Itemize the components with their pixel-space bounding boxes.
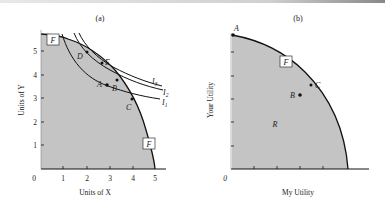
point-c-b	[310, 84, 313, 87]
frontier-label-box-b: F	[280, 56, 292, 67]
svg-text:C: C	[126, 103, 132, 112]
svg-text:3: 3	[108, 174, 112, 183]
svg-text:1: 1	[61, 174, 65, 183]
point-c	[131, 98, 134, 101]
panel-b-title: (b)	[293, 14, 303, 23]
x-axis-label-b: My Utility	[282, 188, 314, 197]
y-axis-label-b: Your Utility	[206, 82, 215, 118]
svg-text:2: 2	[85, 174, 89, 183]
panel-a: (a) 0 1 2 3	[17, 14, 169, 197]
x-tick-labels-a: 0 1 2 3 4 5	[32, 174, 157, 183]
frontier-label-box-bottom-a: F	[143, 138, 155, 149]
x-axis-label-a: Units of X	[79, 188, 111, 197]
y-tick-labels-a: 1 2 3 4 5	[33, 47, 37, 150]
point-b-b	[298, 93, 302, 97]
svg-text:I3: I3	[151, 77, 158, 87]
panel-a-title: (a)	[96, 14, 105, 23]
svg-text:E: E	[104, 58, 110, 67]
svg-text:1: 1	[33, 141, 37, 150]
panel-b: (b) 0 My Utility Your Utility F	[206, 14, 369, 197]
origin-label-b: 0	[223, 174, 227, 183]
curve-labels-a: I3 I2 I1	[151, 77, 169, 108]
svg-text:F: F	[283, 58, 289, 67]
svg-text:4: 4	[33, 71, 37, 80]
svg-text:5: 5	[33, 47, 37, 56]
svg-text:4: 4	[131, 174, 135, 183]
svg-text:I1: I1	[161, 98, 168, 108]
region-label-b: R	[272, 120, 278, 129]
point-b	[116, 79, 119, 82]
svg-text:I2: I2	[162, 88, 169, 98]
point-e	[101, 62, 104, 65]
svg-text:B: B	[290, 91, 295, 100]
svg-text:B: B	[112, 84, 117, 93]
frontier-label-box-top-a: F	[47, 34, 59, 45]
feasible-region-b	[232, 35, 348, 169]
svg-text:3: 3	[33, 94, 37, 103]
svg-text:C: C	[315, 81, 321, 90]
svg-text:0: 0	[32, 174, 36, 183]
point-d	[86, 51, 89, 54]
svg-text:F: F	[50, 36, 56, 45]
svg-text:D: D	[76, 52, 83, 61]
svg-text:A: A	[96, 80, 102, 89]
svg-text:5: 5	[153, 174, 157, 183]
svg-text:A: A	[233, 24, 239, 33]
figure: (a) 0 1 2 3	[0, 0, 385, 207]
point-a-b	[231, 33, 235, 37]
point-a	[105, 83, 109, 87]
svg-text:F: F	[146, 140, 152, 149]
svg-text:2: 2	[33, 118, 37, 127]
y-axis-label-a: Units of Y	[17, 84, 26, 116]
